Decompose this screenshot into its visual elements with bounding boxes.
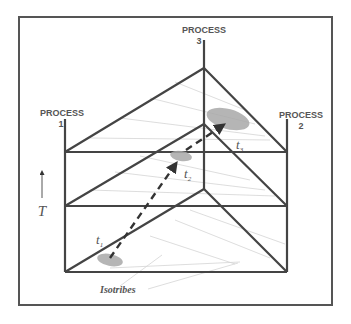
process-2-number: 2 <box>298 121 303 131</box>
time-label-t1: t1 <box>96 232 103 249</box>
process-2-title: PROCESS <box>279 110 323 120</box>
process-3-number: 3 <box>196 36 201 46</box>
process-1-title: PROCESS <box>40 108 84 118</box>
isotribe-line <box>190 210 285 244</box>
process-3-title: PROCESS <box>182 25 226 35</box>
middle-level-triangle <box>65 124 287 206</box>
isotribe-line <box>110 262 240 268</box>
isotribe-line <box>150 236 235 264</box>
isotribes-label: Isotribes <box>99 284 136 295</box>
isotribe-line <box>90 190 275 196</box>
isotribe-leader-line <box>148 263 238 289</box>
isotribe-line <box>140 156 250 180</box>
ternary-prism-diagram: T PROCESS 3 PROCESS 1 PROCESS 2 t1 t2 t3… <box>0 0 351 324</box>
time-label-t2-sub: 2 <box>188 175 192 183</box>
time-label-t3-sub: 3 <box>239 146 244 154</box>
process-1-number: 1 <box>58 119 63 129</box>
isotribe-leader-line <box>120 255 162 286</box>
time-label-t1-sub: 1 <box>100 241 104 249</box>
time-label-t2: t2 <box>184 166 192 183</box>
region-t1-ellipse <box>96 251 124 268</box>
temperature-axis-label: T <box>38 203 48 219</box>
isotribe-line <box>175 220 270 258</box>
isotribe-line <box>175 82 245 110</box>
